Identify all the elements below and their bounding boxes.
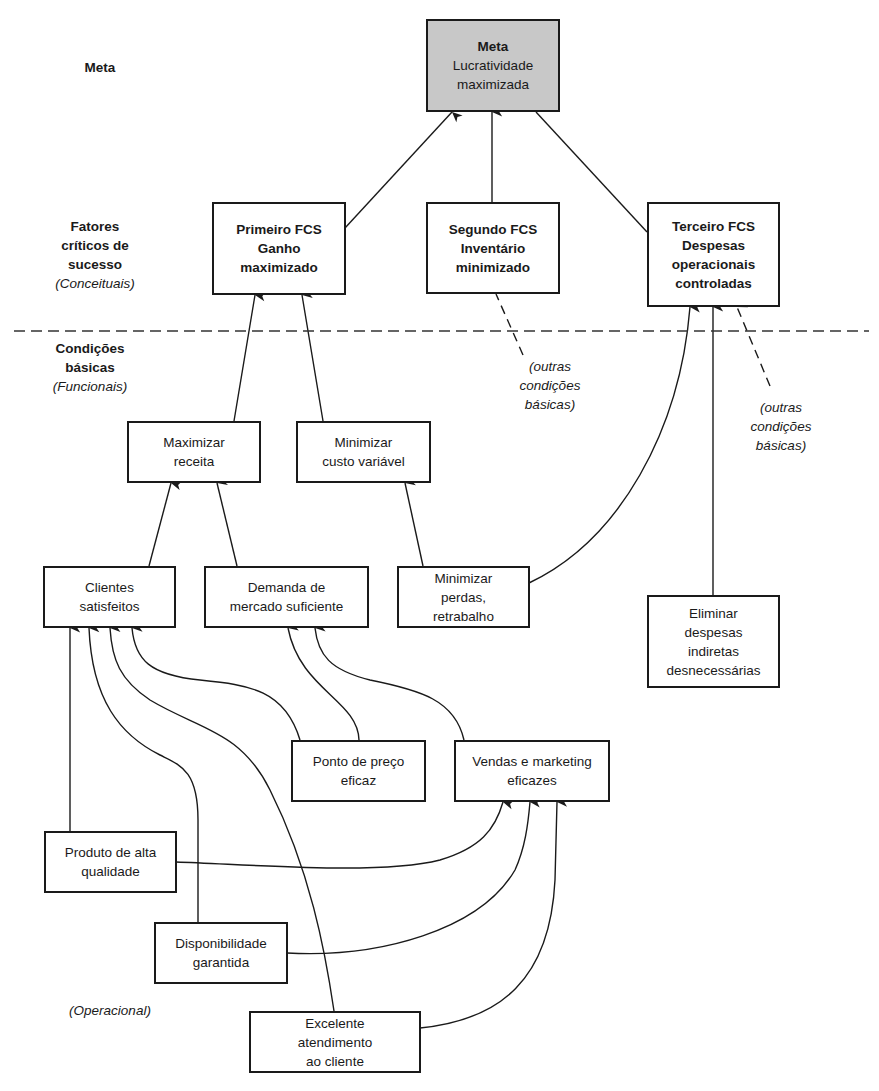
arrow-minperdas-to-csf3 [529,307,690,583]
level-csf-line: críticos de [40,236,150,255]
box-line: custo variável [322,452,405,471]
arrow-maxreceita-to-csf1 [234,295,255,421]
box-line: eficaz [341,771,376,790]
min-perdas-box: Minimizar perdas, retrabalho [397,566,530,628]
box-line: atendimento [298,1033,372,1052]
box-line: Minimizar [435,569,493,588]
box-line: Produto de alta [65,843,157,862]
box-line: retrabalho [433,607,494,626]
csf2-line: Inventário [461,239,526,258]
level-csf-line: Fatores [40,217,150,236]
note-line: condições [738,417,824,436]
other-conditions-note-1: (outras condições básicas) [510,357,590,414]
connector-layer [0,0,879,1091]
box-line: desnecessárias [667,661,761,680]
arrow-clientes-to-maxreceita [149,483,171,566]
csf1-line: Ganho [258,239,301,258]
level-label-csf: Fatores críticos de sucesso (Conceituais… [40,217,150,293]
box-line: Disponibilidade [175,934,267,953]
level-label-necessary: Condições básicas (Funcionais) [35,339,145,396]
note-line: básicas) [510,395,590,414]
disponibilidade-box: Disponibilidade garantida [154,922,288,984]
box-line: Maximizar [163,433,225,452]
box-line: perdas, [441,588,486,607]
other-conditions-note-2: (outras condições básicas) [738,398,824,455]
level-csf-line: sucesso [40,255,150,274]
csf2-line: Segundo FCS [449,220,538,239]
arrow-vendas-to-demanda [315,628,464,740]
csf3-box: Terceiro FCS Despesas operacionais contr… [647,202,780,307]
note-line: (outras [738,398,824,417]
eliminar-box: Eliminar despesas indiretas desnecessári… [647,595,780,688]
min-custo-box: Minimizar custo variável [296,421,431,483]
box-line: indiretas [688,642,739,661]
csf1-line: Primeiro FCS [236,220,322,239]
box-line: garantida [193,953,249,972]
note-line: (outras [510,357,590,376]
level-necessary-subtitle: (Funcionais) [35,377,145,396]
box-line: Eliminar [689,604,738,623]
level-necessary-line: básicas [35,358,145,377]
box-line: Vendas e marketing [472,752,591,771]
box-line: ao cliente [306,1052,364,1071]
arrow-other-to-csf2 [496,294,523,355]
box-line: satisfeitos [79,597,139,616]
box-line: Demanda de [248,578,325,597]
csf3-line: Despesas [682,236,745,255]
box-line: despesas [685,623,743,642]
arrow-produto-to-vendas [176,802,503,868]
produto-box: Produto de alta qualidade [44,831,177,893]
level-label-operational: (Operacional) [55,1001,165,1020]
level-operational-subtitle: (Operacional) [55,1001,165,1020]
box-line: mercado suficiente [230,597,343,616]
box-line: Minimizar [335,433,393,452]
box-line: eficazes [507,771,557,790]
arrow-demanda-to-maxreceita [217,483,237,566]
ponto-preco-box: Ponto de preço eficaz [291,740,426,802]
demanda-box: Demanda de mercado suficiente [204,566,369,628]
arrow-excelente-to-vendas [420,802,557,1028]
excelente-box: Excelente atendimento ao cliente [249,1011,421,1073]
level-necessary-line: Condições [35,339,145,358]
box-line: receita [174,452,215,471]
clientes-box: Clientes satisfeitos [43,566,176,628]
arrow-other-to-csf3 [737,307,770,386]
level-goal-title: Meta [55,58,145,77]
box-line: Ponto de preço [313,752,405,771]
csf3-line: controladas [675,274,752,293]
arrow-pontopreco-to-demanda [288,628,359,740]
level-csf-subtitle: (Conceituais) [40,274,150,293]
csf3-line: Terceiro FCS [672,217,755,236]
box-line: Excelente [305,1014,364,1033]
level-label-goal: Meta [55,58,145,77]
csf1-box: Primeiro FCS Ganho maximizado [212,202,346,295]
csf2-line: minimizado [456,258,530,277]
csf3-line: operacionais [672,255,755,274]
arrow-mincusto-to-csf1 [302,295,323,421]
box-line: qualidade [81,862,140,881]
max-receita-box: Maximizar receita [127,421,261,483]
csf2-box: Segundo FCS Inventário minimizado [426,202,560,294]
goal-line: maximizada [457,75,529,94]
goal-box: Meta Lucratividade maximizada [426,19,560,112]
vendas-box: Vendas e marketing eficazes [454,740,610,802]
csf1-line: maximizado [240,258,317,277]
arrow-minperdas-to-mincusto [405,483,423,566]
box-line: Clientes [85,578,134,597]
note-line: condições [510,376,590,395]
arrow-pontopreco-to-clientes [132,628,300,740]
note-line: básicas) [738,436,824,455]
goal-title: Meta [478,37,509,56]
goal-line: Lucratividade [453,56,533,75]
